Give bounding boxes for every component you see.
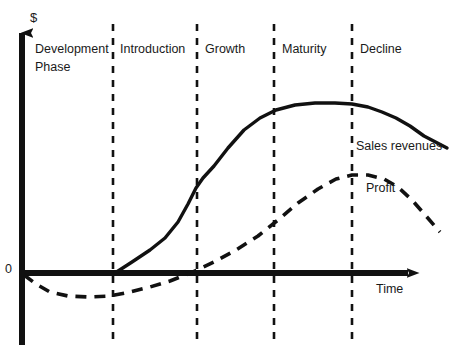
phase-divider-lines bbox=[113, 24, 352, 340]
phase-label-decline: Decline bbox=[360, 42, 402, 57]
profit-annotation: Profit bbox=[366, 181, 395, 195]
sales-revenue-curve bbox=[115, 103, 447, 273]
phase-label-maturity: Maturity bbox=[282, 42, 326, 57]
phase-label-growth: Growth bbox=[205, 42, 245, 57]
x-axis-label: Time bbox=[376, 282, 403, 296]
phase-label-development-line2: Phase bbox=[35, 60, 70, 75]
phase-label-introduction: Introduction bbox=[120, 42, 185, 57]
product-life-cycle-diagram: $ Time 0 Development Phase Introduction … bbox=[0, 0, 458, 352]
sales-revenue-annotation: Sales revenues bbox=[356, 139, 442, 153]
phase-label-development-line1: Development bbox=[35, 42, 109, 57]
y-axis-label: $ bbox=[30, 10, 37, 25]
zero-tick-label: 0 bbox=[5, 262, 12, 276]
